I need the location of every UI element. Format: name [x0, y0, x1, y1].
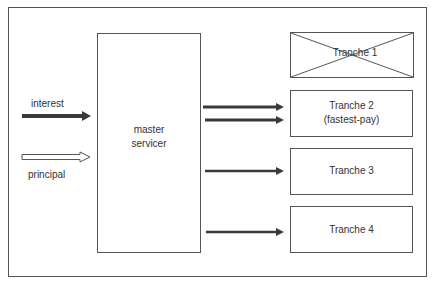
- principal-arrow-icon: [22, 152, 90, 162]
- master-servicer-line2: servicer: [98, 137, 200, 151]
- master-servicer-line1: master: [98, 123, 200, 137]
- tranche-1-box: Tranche 1: [290, 32, 414, 78]
- tranche-4-box: Tranche 4: [290, 206, 413, 253]
- tranche-4-arrow-icon: [206, 228, 284, 236]
- tranche-3-box: Tranche 3: [290, 148, 413, 195]
- interest-label: interest: [31, 98, 64, 109]
- master-servicer-box: master servicer: [97, 33, 201, 253]
- tranche-3-arrow-icon: [205, 167, 284, 175]
- tranche-2-arrow-icon: [203, 103, 284, 111]
- interest-arrow-icon: [22, 111, 91, 121]
- tranche-4-label: Tranche 4: [291, 223, 412, 237]
- tranche-1-label: Tranche 1: [291, 46, 413, 60]
- tranche-2-sublabel: (fastest-pay): [291, 113, 412, 127]
- tranche-2-label: Tranche 2: [291, 99, 412, 113]
- tranche-2-box: Tranche 2 (fastest-pay): [290, 90, 413, 137]
- tranche-3-label: Tranche 3: [291, 164, 412, 178]
- tranche-2-arrow-icon: [205, 116, 284, 124]
- principal-label: principal: [28, 169, 65, 180]
